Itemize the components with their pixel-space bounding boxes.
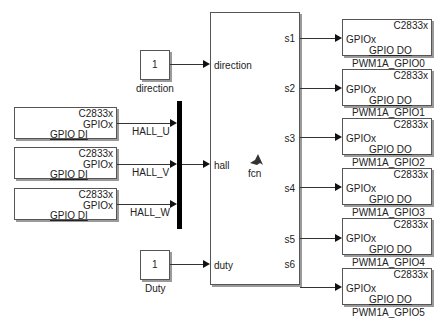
signal-label-hall-w: HALL_W <box>130 207 170 218</box>
arrow-hall-v <box>170 160 177 168</box>
wire-s4 <box>300 187 336 188</box>
input-port-hall: hall <box>214 160 230 171</box>
gpio-port: GPIOx <box>346 233 376 244</box>
output-port-s4: s4 <box>284 183 295 194</box>
signal-label-hall-v: HALL_V <box>132 167 169 178</box>
signal-label-hall-u: HALL_U <box>132 126 170 137</box>
function-name: fcn <box>248 168 261 179</box>
arrow-duty <box>203 260 210 268</box>
wire-hall-w <box>117 204 173 205</box>
wire-hall-v <box>117 164 173 165</box>
constant-label-duty: Duty <box>145 283 166 294</box>
matlab-logo-icon <box>250 154 264 166</box>
output-port-s6: s6 <box>284 259 295 270</box>
arrow-hall-w <box>170 200 177 208</box>
constant-block-direction[interactable]: 1 <box>140 50 170 80</box>
gpio-type: GPIO DI <box>50 169 88 180</box>
gpio-type: GPIO DI <box>50 129 88 140</box>
wire-s6 <box>300 287 336 288</box>
constant-value: 1 <box>152 259 158 270</box>
gpio-type: GPIO DO <box>369 194 412 205</box>
wire-s2 <box>300 88 336 89</box>
gpio-type: GPIO DO <box>369 144 412 155</box>
constant-value: 1 <box>152 59 158 70</box>
gpio-target: C2833x <box>394 119 428 130</box>
input-port-direction: direction <box>214 60 252 71</box>
gpio-do-label-2: PWM1A_GPIO2 <box>352 157 425 168</box>
output-port-s1: s1 <box>284 33 295 44</box>
gpio-do-block-3[interactable]: C2833x GPIOx GPIO DO <box>342 168 432 205</box>
wire-s5 <box>300 238 336 239</box>
gpio-di-block-hall-w[interactable]: C2833x GPIOx GPIO DI <box>14 188 117 220</box>
output-port-s5: s5 <box>284 234 295 245</box>
output-port-s3: s3 <box>284 133 295 144</box>
gpio-di-block-hall-v[interactable]: C2833x GPIOx GPIO DI <box>14 147 117 179</box>
arrow-s1 <box>335 34 342 42</box>
arrow-hall <box>203 160 210 168</box>
gpio-port: GPIOx <box>346 133 376 144</box>
gpio-do-block-0[interactable]: C2833x GPIOx GPIO DO <box>342 19 432 56</box>
wire-s3 <box>300 137 336 138</box>
wire-hall <box>182 164 204 165</box>
gpio-do-label-5: PWM1A_GPIO5 <box>352 307 425 318</box>
gpio-type: GPIO DO <box>369 244 412 255</box>
arrow-hall-u <box>170 119 177 127</box>
gpio-target: C2833x <box>394 20 428 31</box>
gpio-target: C2833x <box>79 108 113 119</box>
gpio-type: GPIO DO <box>369 45 412 56</box>
arrow-s2 <box>335 84 342 92</box>
gpio-type: GPIO DI <box>50 210 88 221</box>
arrow-direction <box>203 60 210 68</box>
gpio-do-block-5[interactable]: C2833x GPIOx GPIO DO <box>342 268 432 305</box>
wire-direction <box>170 64 204 65</box>
gpio-target: C2833x <box>79 189 113 200</box>
input-port-duty: duty <box>214 260 233 271</box>
gpio-do-label-0: PWM1A_GPIO0 <box>352 58 425 69</box>
arrow-s3 <box>335 133 342 141</box>
gpio-do-block-1[interactable]: C2833x GPIOx GPIO DO <box>342 69 432 106</box>
arrow-s5 <box>335 234 342 242</box>
gpio-port: GPIOx <box>346 34 376 45</box>
gpio-type: GPIO DO <box>369 294 412 305</box>
wire-s1 <box>300 38 336 39</box>
constant-label-direction: direction <box>136 83 174 94</box>
wire-hall-u <box>117 123 173 124</box>
gpio-port: GPIOx <box>346 84 376 95</box>
gpio-do-block-2[interactable]: C2833x GPIOx GPIO DO <box>342 118 432 155</box>
gpio-target: C2833x <box>394 269 428 280</box>
gpio-do-block-4[interactable]: C2833x GPIOx GPIO DO <box>342 218 432 255</box>
gpio-target: C2833x <box>394 169 428 180</box>
output-port-s2: s2 <box>284 83 295 94</box>
constant-block-duty[interactable]: 1 <box>140 250 170 280</box>
mux-block[interactable] <box>177 101 182 229</box>
gpio-do-label-3: PWM1A_GPIO3 <box>352 207 425 218</box>
gpio-port: GPIOx <box>346 283 376 294</box>
arrow-s4 <box>335 183 342 191</box>
matlab-function-block[interactable]: direction hall duty s1 s2 s3 s4 s5 s6 fc… <box>210 12 300 285</box>
gpio-type: GPIO DO <box>369 95 412 106</box>
gpio-target: C2833x <box>79 148 113 159</box>
gpio-target: C2833x <box>394 70 428 81</box>
gpio-do-label-4: PWM1A_GPIO4 <box>352 257 425 268</box>
gpio-do-label-1: PWM1A_GPIO1 <box>352 107 425 118</box>
gpio-port: GPIOx <box>346 183 376 194</box>
arrow-s6 <box>335 283 342 291</box>
gpio-target: C2833x <box>394 219 428 230</box>
gpio-di-block-hall-u[interactable]: C2833x GPIOx GPIO DI <box>14 107 117 139</box>
wire-duty <box>170 264 204 265</box>
